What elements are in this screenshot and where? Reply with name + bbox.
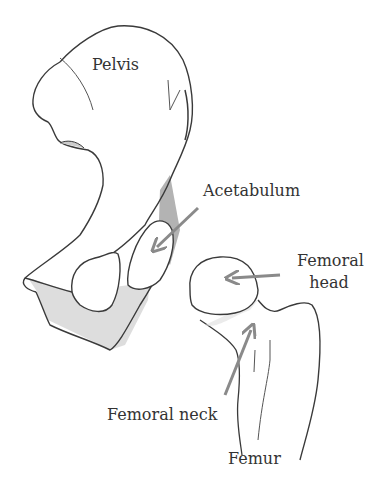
label-femoral-head-line1: Femoral [297, 252, 361, 270]
femoral-neck-arrow [225, 330, 251, 395]
label-acetabulum: Acetabulum [203, 182, 300, 200]
label-femur: Femur [228, 450, 281, 468]
hip-anatomy-diagram: Pelvis Acetabulum Femoral head Femoral n… [0, 0, 391, 486]
pelvis-bone [23, 26, 192, 350]
label-pelvis: Pelvis [92, 56, 139, 74]
label-femoral-head-line2: head [297, 274, 361, 292]
label-femoral-neck: Femoral neck [107, 406, 217, 424]
